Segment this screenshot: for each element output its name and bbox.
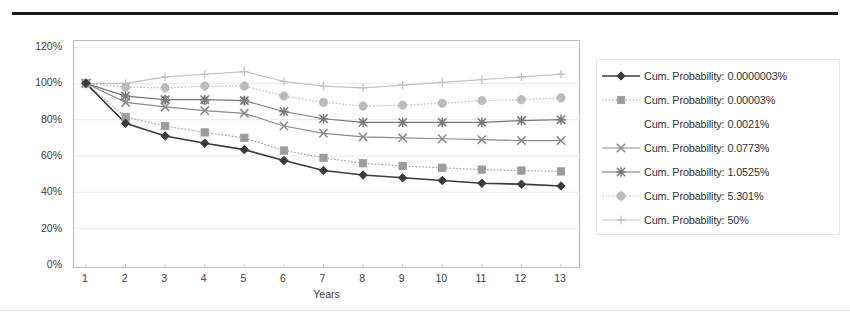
y-axis-tick: 40% bbox=[41, 186, 62, 196]
legend-item-label: Cum. Probability: 0.00003% bbox=[641, 94, 775, 106]
legend-marker-x-icon bbox=[601, 139, 641, 157]
y-axis-tick: 0% bbox=[47, 259, 62, 269]
legend-item-label: Cum. Probability: 0.0021% bbox=[641, 118, 769, 130]
y-axis-tick-labels: 120%100%80%60%40%20%0% bbox=[0, 40, 68, 268]
legend-marker-plus-icon bbox=[601, 211, 641, 229]
y-axis-tick: 80% bbox=[41, 114, 62, 124]
x-axis-tick-labels: 12345678910111213 bbox=[73, 272, 580, 288]
legend-item[interactable]: Cum. Probability: 0.0021% bbox=[597, 112, 839, 136]
legend-item-label: Cum. Probability: 0.0000003% bbox=[641, 70, 787, 82]
legend-item-label: Cum. Probability: 0.0773% bbox=[641, 142, 769, 154]
legend-item[interactable]: Cum. Probability: 0.0773% bbox=[597, 136, 839, 160]
x-axis-tick: 9 bbox=[399, 272, 405, 284]
y-axis-tick: 60% bbox=[41, 150, 62, 160]
legend-marker-square-icon bbox=[601, 91, 641, 109]
legend-item[interactable]: Cum. Probability: 0.00003% bbox=[597, 88, 839, 112]
legend-item[interactable]: Cum. Probability: 5.301% bbox=[597, 184, 839, 208]
x-axis-tick: 11 bbox=[475, 272, 486, 284]
plot-series-svg bbox=[74, 41, 581, 269]
x-axis-tick: 4 bbox=[201, 272, 207, 284]
legend-item[interactable]: Cum. Probability: 50% bbox=[597, 208, 839, 232]
chart-page: 120%100%80%60%40%20%0% 12345678910111213… bbox=[0, 0, 850, 320]
x-axis-tick: 5 bbox=[240, 272, 246, 284]
footer-divider bbox=[0, 310, 850, 311]
legend-item-label: Cum. Probability: 1.0525% bbox=[641, 166, 769, 178]
chart-legend: Cum. Probability: 0.0000003%Cum. Probabi… bbox=[596, 59, 840, 235]
x-axis-tick: 3 bbox=[161, 272, 167, 284]
x-axis-tick: 8 bbox=[359, 272, 365, 284]
legend-item-label: Cum. Probability: 5.301% bbox=[641, 190, 763, 202]
plot-area bbox=[73, 40, 580, 268]
y-axis-tick: 100% bbox=[35, 77, 62, 87]
x-axis-tick: 10 bbox=[435, 272, 447, 284]
x-axis-title: Years bbox=[73, 288, 580, 300]
legend-marker-circle-open-icon bbox=[601, 115, 641, 133]
x-axis-tick: 13 bbox=[554, 272, 566, 284]
legend-marker-asterisk-icon bbox=[601, 163, 641, 181]
y-axis-tick: 20% bbox=[41, 223, 62, 233]
y-axis-tick: 120% bbox=[35, 41, 62, 51]
legend-item[interactable]: Cum. Probability: 0.0000003% bbox=[597, 64, 839, 88]
x-axis-tick: 2 bbox=[122, 272, 128, 284]
x-axis-tick: 12 bbox=[515, 272, 527, 284]
x-axis-tick: 7 bbox=[320, 272, 326, 284]
header-divider bbox=[12, 12, 838, 15]
legend-marker-diamond-icon bbox=[601, 67, 641, 85]
x-axis-tick: 6 bbox=[280, 272, 286, 284]
legend-item-label: Cum. Probability: 50% bbox=[641, 214, 749, 226]
x-axis-tick: 1 bbox=[82, 272, 88, 284]
legend-marker-circle-icon bbox=[601, 187, 641, 205]
legend-item[interactable]: Cum. Probability: 1.0525% bbox=[597, 160, 839, 184]
